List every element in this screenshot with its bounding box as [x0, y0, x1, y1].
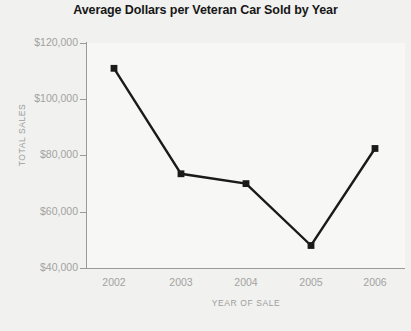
series-line: [114, 68, 375, 245]
data-point-2003: [178, 170, 185, 177]
series-markers: [111, 65, 379, 249]
data-point-2005: [308, 242, 315, 249]
data-series-layer: [0, 0, 411, 331]
data-point-2002: [111, 65, 118, 72]
data-point-2004: [243, 180, 250, 187]
line-chart: Average Dollars per Veteran Car Sold by …: [0, 0, 411, 331]
data-point-2006: [372, 145, 379, 152]
